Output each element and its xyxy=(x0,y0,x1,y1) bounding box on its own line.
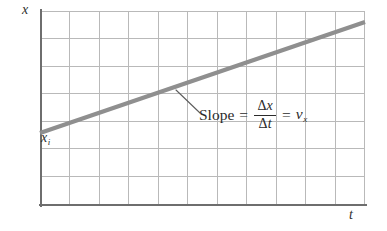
initial-position-subscript: i xyxy=(47,137,50,147)
y-axis-label: x xyxy=(22,3,28,17)
slope-equals-first: = xyxy=(239,107,248,123)
delta-x-over-delta-t-fraction: Δx Δt xyxy=(254,99,276,131)
fraction-numerator: Δx xyxy=(255,99,274,115)
fraction-denominator: Δt xyxy=(257,116,274,132)
plot-area xyxy=(0,0,387,231)
initial-position-label: xi xyxy=(41,131,50,147)
velocity-symbol: v xyxy=(296,105,303,122)
numerator-variable: x xyxy=(266,98,272,113)
denominator-delta-symbol: Δ xyxy=(259,116,268,131)
slope-word: Slope xyxy=(199,107,234,123)
denominator-variable: t xyxy=(268,116,272,131)
slope-annotation: Slope = Δx Δt = vx xyxy=(199,99,307,131)
velocity-subscript: x xyxy=(303,114,308,124)
x-axis-label: t xyxy=(349,208,353,222)
velocity-term: vx xyxy=(296,106,307,124)
position-time-graph-figure: x t xi Slope = Δx Δt = vx xyxy=(0,0,387,231)
slope-equals-second: = xyxy=(282,107,291,123)
